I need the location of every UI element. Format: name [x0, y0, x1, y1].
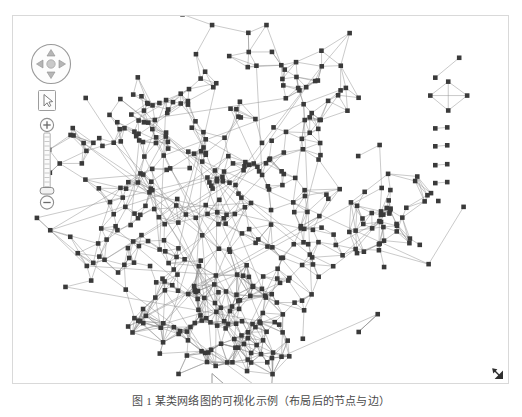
zoom-slider-handle[interactable]	[40, 188, 54, 195]
graph-viewer-frame[interactable]	[12, 15, 509, 384]
resize-handle[interactable]	[491, 366, 504, 379]
zoom-slider[interactable]	[36, 117, 58, 210]
graph-edges-layer	[37, 16, 467, 383]
figure-caption: 图 1 某类网络图的可视化示例（布局后的节点与边）	[0, 392, 522, 408]
navigation-controls	[30, 43, 76, 210]
pan-control[interactable]	[30, 43, 72, 85]
pan-center-button[interactable]	[47, 60, 55, 68]
network-graph-canvas[interactable]	[13, 16, 508, 383]
graph-nodes-layer	[35, 16, 470, 383]
select-tool-button[interactable]	[37, 89, 57, 112]
